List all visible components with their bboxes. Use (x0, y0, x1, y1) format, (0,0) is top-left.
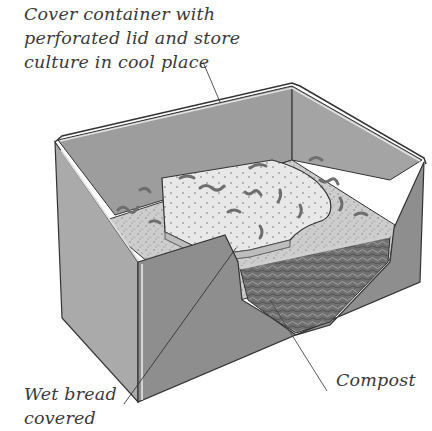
inner-right-wall (292, 86, 422, 180)
leader-line-cover (203, 62, 220, 102)
container-illustration (0, 0, 432, 431)
